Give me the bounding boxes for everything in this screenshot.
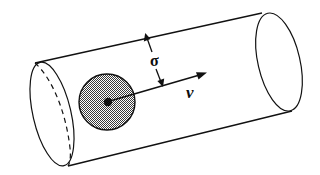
cylinder-hidden-back-edge-dashed: [35, 63, 70, 166]
velocity-label: v: [186, 83, 194, 102]
particle-center-dot: [104, 98, 112, 106]
velocity-arrow-head: [196, 72, 207, 79]
cross-section-label: σ: [150, 52, 159, 69]
cylinder-left-cap-ellipse: [22, 58, 83, 170]
figure-container: σ v: [0, 0, 320, 175]
collision-cylinder-diagram: σ v: [0, 0, 320, 175]
sigma-dimension-upper-line: [147, 38, 152, 52]
cylinder-right-cap-ellipse: [247, 9, 310, 116]
